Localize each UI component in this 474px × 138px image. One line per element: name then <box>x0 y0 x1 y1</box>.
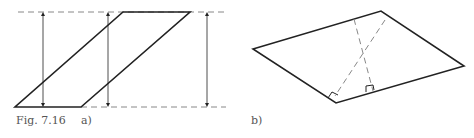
figure-canvas <box>0 0 474 138</box>
panel-b-diagram <box>253 11 464 103</box>
altitude-dashed-2 <box>354 19 373 91</box>
panel-a-label: a) <box>81 114 92 127</box>
panel-b-label: b) <box>251 114 262 127</box>
right-angle-mark-1 <box>328 92 338 98</box>
parallelogram-b <box>253 11 464 103</box>
panel-a-diagram <box>15 12 226 107</box>
parallelogram-a <box>15 12 190 107</box>
altitude-dashed-1 <box>335 20 385 96</box>
figure-caption-number: Fig. 7.16 <box>16 114 66 127</box>
